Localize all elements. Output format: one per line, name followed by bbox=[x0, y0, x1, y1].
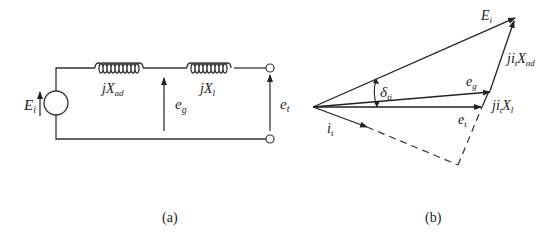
et-label-b: et bbox=[458, 112, 467, 129]
phasor-Ei bbox=[313, 18, 515, 107]
inductor-xad-label: jXad bbox=[100, 81, 124, 98]
figure-canvas: Ei jXad jXl eg et Ei bbox=[0, 0, 558, 235]
drop-xl-label: jitXl bbox=[490, 98, 514, 115]
dashed-line-current bbox=[367, 127, 458, 165]
inductor-xl-label: jXl bbox=[198, 81, 215, 98]
wire-bottom bbox=[56, 115, 266, 139]
inductor-xad-icon bbox=[95, 63, 143, 73]
terminal-bottom-icon bbox=[266, 135, 274, 143]
phasor-it bbox=[313, 107, 367, 127]
caption-a: (a) bbox=[162, 210, 178, 226]
phasor-drop-xl bbox=[482, 91, 489, 107]
angle-label: δti bbox=[380, 84, 392, 102]
voltage-source-icon bbox=[44, 91, 68, 115]
inductor-xl-icon bbox=[187, 63, 231, 73]
caption-b: (b) bbox=[425, 210, 442, 226]
terminal-top-icon bbox=[266, 64, 274, 72]
wire-top-left bbox=[56, 68, 95, 91]
drop-xad-label: jitXad bbox=[505, 51, 535, 68]
et-label-a: et bbox=[280, 96, 290, 114]
Ei-label: Ei bbox=[480, 8, 493, 25]
phasor-diagram: Ei eg et it jitXl jitXad bbox=[313, 8, 535, 165]
eg-label: eg bbox=[175, 96, 187, 115]
angle-arrow-bottom-icon bbox=[374, 101, 380, 107]
source-label: Ei bbox=[23, 97, 36, 115]
it-label: it bbox=[327, 121, 334, 138]
equivalent-circuit: Ei jXad jXl eg et bbox=[23, 63, 290, 143]
phasor-eg bbox=[313, 92, 490, 107]
eg-label-b: eg bbox=[466, 74, 477, 91]
